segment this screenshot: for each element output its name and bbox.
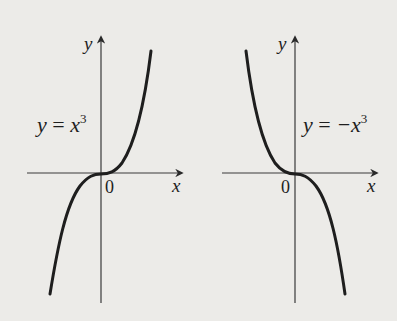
y-axis-label: y <box>278 34 286 53</box>
fn-exponent: 3 <box>361 111 368 126</box>
fn-eq: = <box>313 112 336 137</box>
origin-label: 0 <box>105 178 114 196</box>
function-label-negative-cubic: y = −x3 <box>303 112 367 136</box>
fn-lhs: y <box>37 112 47 137</box>
fn-rhs: x <box>70 112 80 137</box>
graph-negative-cubic <box>222 37 377 303</box>
x-axis-label: x <box>172 176 180 195</box>
fn-eq: = <box>47 112 70 137</box>
fn-rhs: −x <box>336 112 361 137</box>
function-label-cubic: y = x3 <box>37 112 86 136</box>
y-axis-label: y <box>84 34 92 53</box>
fn-exponent: 3 <box>80 111 87 126</box>
fn-lhs: y <box>303 112 313 137</box>
graph-cubic <box>27 37 182 303</box>
graphs-svg <box>0 0 397 321</box>
figure: y 0 x y = x3 y 0 x y = −x3 <box>0 0 397 321</box>
x-axis-label: x <box>367 176 375 195</box>
origin-label: 0 <box>281 178 290 196</box>
